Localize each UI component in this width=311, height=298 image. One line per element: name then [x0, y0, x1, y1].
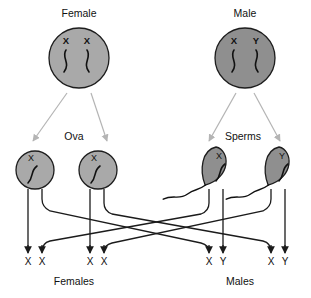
female-parent-label: Female — [61, 7, 96, 19]
ovum-1-chromosome-label: X — [28, 153, 34, 163]
offspring-3-label: X — [87, 256, 94, 267]
male-parent-label: Male — [234, 7, 257, 19]
ovum2-to-offspring7-line — [104, 189, 271, 252]
offspring-arrow-layer — [28, 245, 285, 253]
sperm2-to-offspring4-line — [104, 189, 271, 252]
gamete-cell-layer: XXXY — [16, 147, 289, 199]
ovum1-to-offspring5-line — [42, 189, 209, 252]
fertilization-line-layer — [28, 189, 285, 252]
ovum-2-chromosome-label: X — [91, 153, 97, 163]
offspring-5-label: X — [206, 256, 213, 267]
female-parent-chromosome-label-0: X — [63, 35, 70, 46]
offspring-2-label: X — [39, 256, 46, 267]
sperm-2-tail — [226, 185, 268, 199]
male-parent-chromosome-label-1: Y — [253, 35, 260, 46]
females-label: Females — [54, 275, 94, 287]
male-parent-chromosome-label-0: X — [231, 35, 238, 46]
sex-determination-diagram: XXXY XXXY FemaleMaleOvaSpermsXXXXXYXYFem… — [0, 0, 311, 298]
diagram-canvas: XXXY XXXY FemaleMaleOvaSpermsXXXXXYXYFem… — [0, 0, 311, 298]
ovum-2-cell — [79, 151, 117, 189]
sperm1-to-offspring2-line — [42, 189, 209, 252]
ovum-1-cell — [16, 151, 54, 189]
offspring-7-label: X — [268, 256, 275, 267]
male-parent-cell — [215, 28, 275, 88]
female-parent-cell — [49, 28, 109, 88]
sperms-label: Sperms — [225, 130, 261, 142]
sperm-1-chromosome-label: X — [216, 151, 222, 161]
ova-label: Ova — [64, 130, 83, 142]
offspring-8-label: Y — [282, 256, 289, 267]
males-label: Males — [226, 275, 254, 287]
parent-cell-layer: XXXY — [49, 28, 275, 88]
offspring-4-label: X — [101, 256, 108, 267]
sperm-2-chromosome-label: Y — [279, 151, 285, 161]
sperm-1-tail — [163, 185, 205, 199]
offspring-6-label: Y — [220, 256, 227, 267]
offspring-1-label: X — [25, 256, 32, 267]
female-parent-chromosome-label-1: X — [84, 35, 91, 46]
